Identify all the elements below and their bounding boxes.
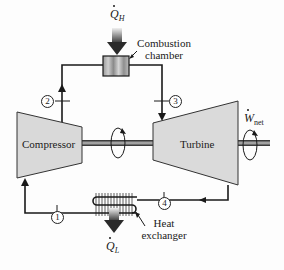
station-2: 2 xyxy=(41,95,54,108)
work-net-symbol: W xyxy=(244,111,254,125)
combustion-chamber-label: Combustion chamber xyxy=(134,37,194,61)
brayton-cycle-diagram: QH Combustion chamber 2 3 1 4 Compressor… xyxy=(0,0,284,270)
compressor-label: Compressor xyxy=(22,138,75,150)
turbine-label: Turbine xyxy=(180,138,214,150)
heat-out-arrow xyxy=(104,208,124,233)
flow-arrow-1 xyxy=(21,178,29,186)
heat-out-symbol: Q xyxy=(106,239,115,253)
flow-arrow-4 xyxy=(199,197,206,203)
heat-out-subscript: L xyxy=(115,246,119,255)
combustion-chamber-box xyxy=(103,51,137,76)
heat-exchanger-line1: Heat xyxy=(136,217,192,229)
heat-in-symbol: Q xyxy=(110,7,119,21)
combustion-chamber-line2: chamber xyxy=(134,49,194,61)
combustion-chamber-line1: Combustion xyxy=(134,37,194,49)
heat-in-arrow xyxy=(107,28,127,55)
heat-exchanger-line2: exchanger xyxy=(136,229,192,241)
heat-in-subscript: H xyxy=(119,14,125,23)
station-4: 4 xyxy=(158,197,171,210)
heat-in-label: QH xyxy=(110,8,124,25)
work-net-subscript: net xyxy=(254,118,264,127)
work-net-label: Wnet xyxy=(244,112,264,129)
heat-out-label: QL xyxy=(106,240,119,257)
station-3: 3 xyxy=(169,95,182,108)
heat-exchanger-label: Heat exchanger xyxy=(136,217,192,241)
station-1: 1 xyxy=(51,211,64,224)
flow-arrow-2 xyxy=(58,84,66,92)
